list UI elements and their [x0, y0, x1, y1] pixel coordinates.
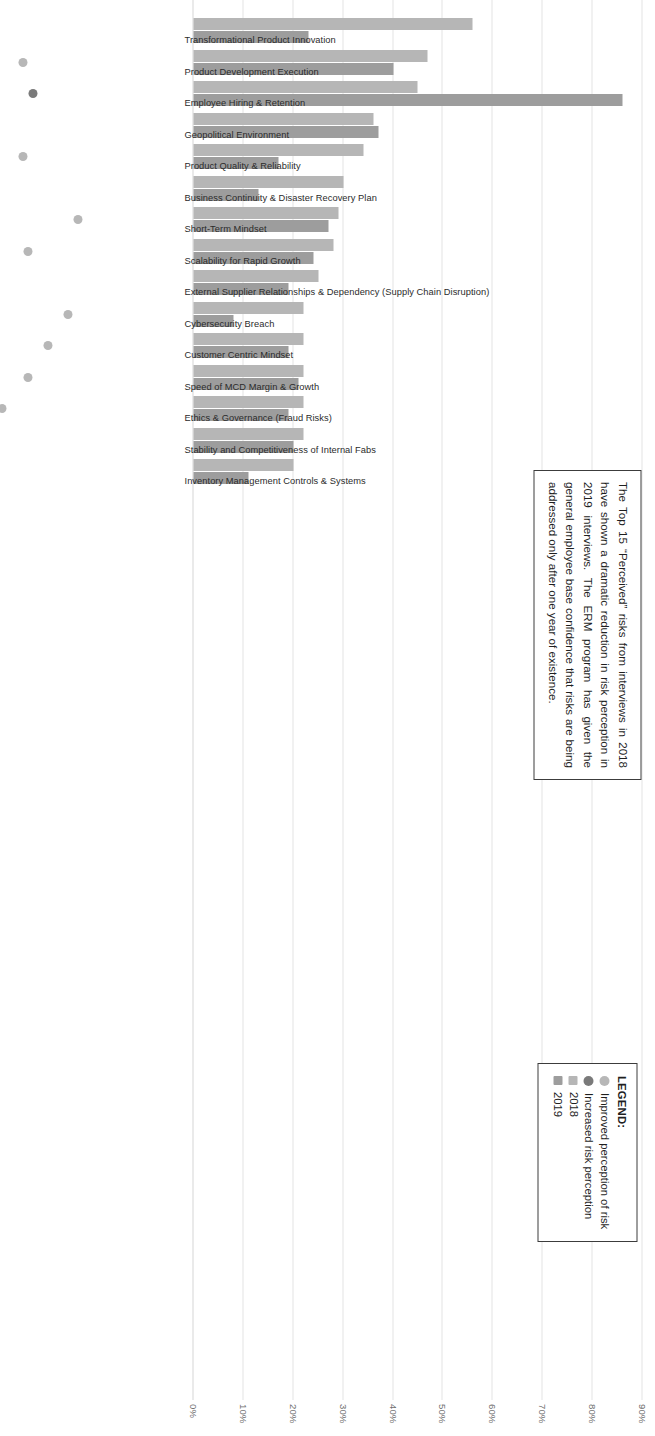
category-label: Product Quality & Reliability — [184, 161, 300, 171]
legend-item-label: 2018 — [567, 1092, 579, 1117]
category-label: Cybersecurity Breach — [184, 319, 274, 329]
rotated-slide-wrapper: 0%10%20%30%40%50%60%70%80%90% Transforma… — [0, 0, 655, 1436]
marker-improved-icon — [23, 247, 32, 256]
marker-increased-icon — [28, 89, 37, 98]
marker-improved-icon — [18, 58, 27, 67]
callout-text: The Top 15 “Perceived” risks from interv… — [546, 482, 629, 768]
category-label: Stability and Competitiveness of Interna… — [184, 445, 375, 455]
legend-item: 2018 — [567, 1076, 579, 1229]
category-label: External Supplier Relationships & Depend… — [184, 287, 489, 297]
marker-improved-icon — [23, 373, 32, 382]
category-label: Customer Centric Mindset — [184, 350, 293, 360]
bar-2018 — [193, 81, 418, 93]
legend-item-label: 2019 — [552, 1092, 564, 1117]
bar-2018 — [193, 176, 343, 188]
marker-improved-icon — [73, 215, 82, 224]
legend-title: LEGEND: — [615, 1076, 627, 1229]
callout-textbox: The Top 15 “Perceived” risks from interv… — [533, 470, 641, 780]
category-label: Ethics & Governance (Fraud Risks) — [184, 413, 331, 423]
legend-box: LEGEND: Improved perception of riskIncre… — [537, 1063, 637, 1242]
bar-2018 — [193, 333, 303, 345]
legend-item: Improved perception of risk — [598, 1076, 610, 1229]
legend-item-label: Increased risk perception — [583, 1093, 595, 1219]
bar-2018 — [193, 50, 427, 62]
marker-improved-icon — [43, 341, 52, 350]
marker-improved-icon — [18, 152, 27, 161]
category-label: Employee Hiring & Retention — [184, 98, 305, 108]
legend-swatch-square-icon — [553, 1076, 562, 1085]
category-label: Product Development Execution — [184, 67, 318, 77]
category-label: Short-Term Mindset — [184, 224, 266, 234]
category-label: Geopolitical Environment — [184, 130, 289, 140]
legend-item: Increased risk perception — [583, 1076, 595, 1229]
bar-2018 — [193, 239, 333, 251]
legend-swatch-circle-icon — [599, 1076, 609, 1086]
legend-item: 2019 — [552, 1076, 564, 1229]
bar-2018 — [193, 18, 472, 30]
category-label: Inventory Management Controls & Systems — [184, 476, 365, 486]
marker-improved-icon — [63, 310, 72, 319]
bar-2018 — [193, 396, 303, 408]
category-label: Speed of MCD Margin & Growth — [184, 382, 319, 392]
bar-2018 — [193, 302, 303, 314]
bar-2018 — [193, 365, 303, 377]
bar-2018 — [193, 459, 293, 471]
category-label: Scalability for Rapid Growth — [184, 256, 300, 266]
bar-2018 — [193, 270, 318, 282]
bar-2018 — [193, 144, 363, 156]
bar-2018 — [193, 207, 338, 219]
legend-item-label: Improved perception of risk — [598, 1093, 610, 1229]
legend-swatch-square-icon — [569, 1076, 578, 1085]
category-label: Transformational Product Innovation — [184, 35, 335, 45]
risk-perception-chart-figure: 0%10%20%30%40%50%60%70%80%90% Transforma… — [0, 0, 655, 1436]
bar-2018 — [193, 113, 373, 125]
category-label: Business Continuity & Disaster Recovery … — [184, 193, 376, 203]
legend-rows: Improved perception of riskIncreased ris… — [552, 1076, 611, 1229]
bar-2018 — [193, 428, 303, 440]
legend-swatch-circle-icon — [584, 1076, 594, 1086]
